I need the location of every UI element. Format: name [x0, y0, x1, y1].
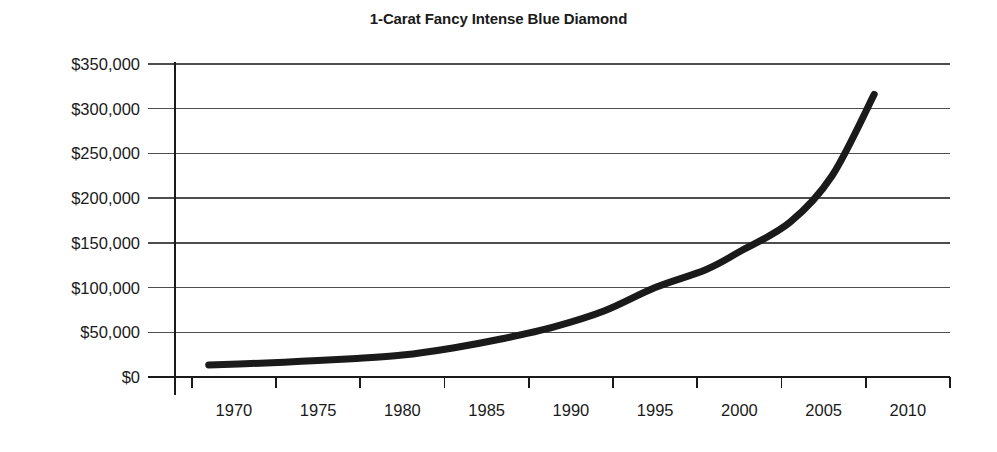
data-series-group: [209, 94, 874, 365]
y-tick-label: $250,000: [71, 144, 140, 163]
x-tick-label: 2000: [721, 401, 758, 420]
x-tick-label: 1980: [384, 401, 421, 420]
chart-figure: 1-Carat Fancy Intense Blue Diamond $0$50…: [0, 0, 997, 452]
y-tick-label: $100,000: [71, 278, 140, 297]
y-tick-label: $50,000: [80, 323, 140, 342]
x-tick-label: 2005: [805, 401, 842, 420]
x-tick-label: 1995: [637, 401, 674, 420]
y-tick-label: $300,000: [71, 99, 140, 118]
x-tick-label: 1990: [553, 401, 590, 420]
y-tick-label: $350,000: [71, 55, 140, 74]
x-tick-label: 1975: [300, 401, 337, 420]
data-line: [209, 94, 874, 365]
plot-area: [0, 0, 997, 452]
y-tick-label: $0: [122, 368, 140, 387]
x-tick-label: 1970: [216, 401, 253, 420]
x-tick-label: 1985: [468, 401, 505, 420]
x-tick-label: 2010: [890, 401, 927, 420]
x-tick-marks: [192, 377, 950, 388]
y-tick-label: $150,000: [71, 233, 140, 252]
y-tick-label: $200,000: [71, 189, 140, 208]
